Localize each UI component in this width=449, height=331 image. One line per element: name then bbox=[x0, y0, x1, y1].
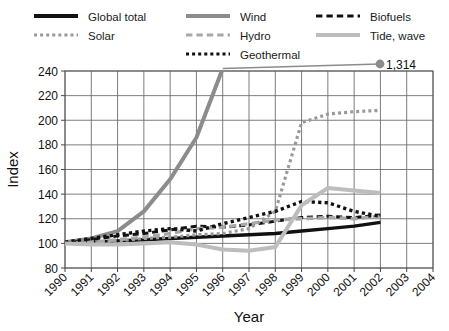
x-tick-label: 2001 bbox=[330, 270, 359, 299]
chart-legend: Global totalWindBiofuelsSolarHydroTide, … bbox=[34, 11, 425, 61]
legend-item-tide-wave[interactable]: Tide, wave bbox=[316, 30, 425, 42]
chart-figure: Global totalWindBiofuelsSolarHydroTide, … bbox=[0, 0, 449, 331]
legend-label-hydro: Hydro bbox=[240, 30, 271, 42]
legend-item-wind[interactable]: Wind bbox=[186, 11, 266, 23]
y-tick-label: 200 bbox=[38, 114, 58, 128]
x-tick-label: 1996 bbox=[199, 270, 228, 299]
y-tick-label: 220 bbox=[38, 89, 58, 103]
y-tick-label: 160 bbox=[38, 163, 58, 177]
legend-item-biofuels[interactable]: Biofuels bbox=[316, 11, 411, 23]
x-tick-label: 1992 bbox=[94, 270, 123, 299]
x-tick-label: 2000 bbox=[304, 270, 333, 299]
legend-label-global-total: Global total bbox=[88, 11, 146, 23]
legend-label-tide-wave: Tide, wave bbox=[370, 30, 425, 42]
x-axis-title: Year bbox=[234, 308, 264, 325]
x-tick-label: 2004 bbox=[409, 270, 438, 299]
x-tick-label: 1998 bbox=[252, 270, 281, 299]
y-tick-label: 240 bbox=[38, 65, 58, 79]
x-tick-label: 1991 bbox=[68, 270, 97, 299]
y-axis: 80100120140160180200220240Index bbox=[4, 65, 65, 276]
x-tick-label: 1997 bbox=[225, 270, 254, 299]
legend-label-geothermal: Geothermal bbox=[240, 49, 300, 61]
legend-label-solar: Solar bbox=[88, 30, 115, 42]
legend-item-global-total[interactable]: Global total bbox=[34, 11, 146, 23]
x-tick-label: 1999 bbox=[278, 270, 307, 299]
x-tick-label: 1994 bbox=[146, 270, 175, 299]
x-tick-label: 1993 bbox=[120, 270, 149, 299]
annotation-leader-line bbox=[223, 64, 380, 69]
x-axis: 1990199119921993199419951996199719981999… bbox=[41, 268, 438, 325]
x-tick-label: 2002 bbox=[357, 270, 386, 299]
y-tick-label: 120 bbox=[38, 212, 58, 226]
y-axis-title: Index bbox=[4, 151, 21, 188]
legend-item-hydro[interactable]: Hydro bbox=[186, 30, 271, 42]
legend-item-geothermal[interactable]: Geothermal bbox=[186, 49, 300, 61]
line-chart-svg: Global totalWindBiofuelsSolarHydroTide, … bbox=[0, 0, 449, 331]
legend-label-wind: Wind bbox=[240, 11, 266, 23]
x-tick-label: 2003 bbox=[383, 270, 412, 299]
y-tick-label: 180 bbox=[38, 138, 58, 152]
legend-label-biofuels: Biofuels bbox=[370, 11, 411, 23]
y-tick-label: 140 bbox=[38, 188, 58, 202]
y-tick-label: 100 bbox=[38, 237, 58, 251]
legend-item-solar[interactable]: Solar bbox=[34, 30, 115, 42]
wind-endpoint-marker bbox=[376, 60, 385, 69]
x-tick-label: 1995 bbox=[173, 270, 202, 299]
wind-endpoint-value-label: 1,314 bbox=[386, 58, 416, 72]
